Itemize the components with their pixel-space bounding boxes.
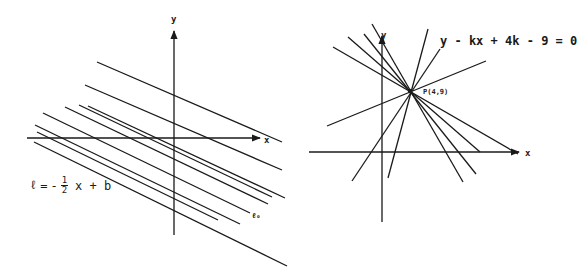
left-x-axis-label: x xyxy=(264,135,269,145)
parallel-line-3 xyxy=(88,106,285,198)
left-y-axis-label: y xyxy=(171,14,176,24)
right-y-axis-label: y xyxy=(381,30,386,40)
point-p-label: P(4,9) xyxy=(423,88,448,96)
parallel-line-2 xyxy=(85,85,282,170)
equation-fraction: 1 2 xyxy=(61,176,68,195)
point-p xyxy=(408,89,411,92)
right-diagram xyxy=(309,24,519,222)
left-diagram xyxy=(27,31,287,266)
right-x-axis-label: x xyxy=(525,148,530,158)
pencil-line-5 xyxy=(388,29,428,178)
pencil-line-6 xyxy=(352,49,440,181)
line-l0-label: ℓ₀ xyxy=(252,212,260,220)
parallel-line-l0 xyxy=(43,113,250,213)
equation-lhs: ℓ xyxy=(30,178,37,193)
pencil-line-4 xyxy=(333,47,518,154)
left-equation: ℓ = - 1 2 x + b xyxy=(30,176,111,195)
equation-sign: - xyxy=(50,179,57,193)
fraction-denominator: 2 xyxy=(62,186,67,195)
parallel-line-9 xyxy=(34,142,287,266)
right-equation: y - kx + 4k - 9 = 0 xyxy=(440,34,577,48)
pencil-line-7 xyxy=(327,61,486,126)
equation-rest: x + b xyxy=(75,179,111,193)
equation-equals: = xyxy=(40,179,47,193)
